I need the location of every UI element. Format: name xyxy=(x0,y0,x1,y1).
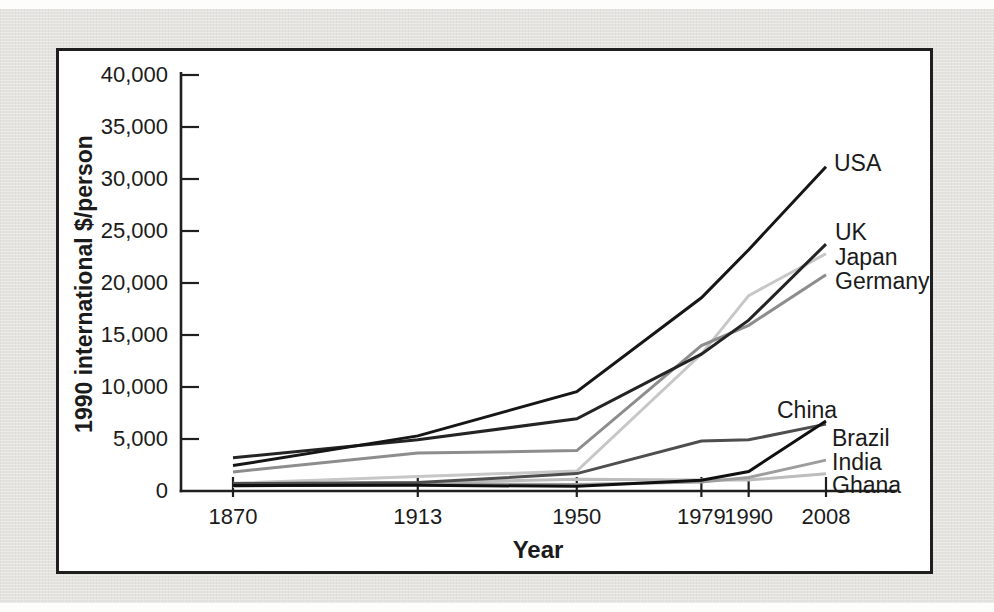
y-tick-label: 20,000 xyxy=(58,271,168,295)
y-tick-label: 40,000 xyxy=(58,63,168,87)
series-label-usa: USA xyxy=(834,150,881,176)
x-tick-label: 1950 xyxy=(532,505,622,529)
y-tick-label: 35,000 xyxy=(58,115,168,139)
y-tick-label: 5,000 xyxy=(58,427,168,451)
series-label-germany: Germany xyxy=(835,268,930,294)
series-label-ghana: Ghana xyxy=(832,472,901,498)
y-tick-label: 10,000 xyxy=(58,375,168,399)
series-label-japan: Japan xyxy=(835,244,898,270)
x-tick-label: 1870 xyxy=(188,505,278,529)
x-tick-label: 1913 xyxy=(373,505,463,529)
series-line-uk xyxy=(233,244,826,458)
series-line-germany xyxy=(233,275,826,472)
y-tick-label: 25,000 xyxy=(58,219,168,243)
x-axis-title: Year xyxy=(513,536,564,564)
series-label-uk: UK xyxy=(835,219,867,245)
y-tick-label: 30,000 xyxy=(58,167,168,191)
series-label-brazil: Brazil xyxy=(832,425,890,451)
series-label-china: China xyxy=(777,397,837,423)
scanned-chart-figure: 1990 international $/person Year 05,0001… xyxy=(0,0,994,612)
x-tick-label: 2008 xyxy=(781,505,871,529)
y-tick-label: 0 xyxy=(58,479,168,503)
series-line-usa xyxy=(233,167,826,466)
y-tick-label: 15,000 xyxy=(58,323,168,347)
